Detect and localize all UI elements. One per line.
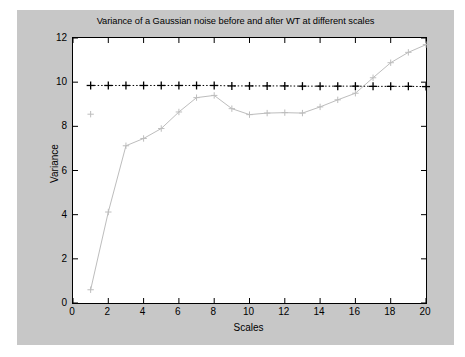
y-tick-label: 12 [56, 32, 67, 43]
isolated-marker-gray [87, 111, 93, 117]
x-axis-label: Scales [72, 322, 425, 333]
x-tick-label: 14 [314, 306, 325, 317]
x-tick-label: 6 [175, 306, 181, 317]
x-axis-tick-labels: 02468101214161820 [72, 306, 425, 322]
x-tick-label: 10 [243, 306, 254, 317]
x-tick-label: 16 [349, 306, 360, 317]
figure-root: Variance of a Gaussian noise before and … [0, 0, 465, 357]
x-tick-label: 8 [210, 306, 216, 317]
x-tick-label: 12 [278, 306, 289, 317]
chart-title: Variance of a Gaussian noise before and … [17, 16, 454, 26]
plot-axes-area [72, 37, 427, 304]
y-tick-label: 4 [61, 208, 67, 219]
y-tick-label: 6 [61, 164, 67, 175]
y-tick-label: 8 [61, 120, 67, 131]
plot-svg [73, 38, 426, 303]
x-tick-label: 18 [384, 306, 395, 317]
y-axis-tick-labels: 024681012 [47, 37, 67, 302]
series-after-wt [87, 41, 429, 293]
y-tick-label: 10 [56, 76, 67, 87]
series-before-wt [87, 81, 430, 90]
x-tick-label: 4 [140, 306, 146, 317]
y-tick-label: 2 [61, 252, 67, 263]
y-tick-label: 0 [61, 297, 67, 308]
x-tick-label: 20 [419, 306, 430, 317]
x-tick-label: 0 [69, 306, 75, 317]
x-tick-label: 2 [105, 306, 111, 317]
